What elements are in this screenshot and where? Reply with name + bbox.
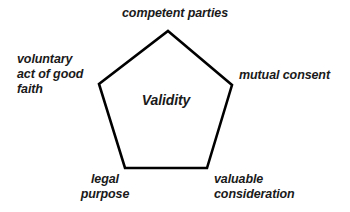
label-validity-center: Validity	[99, 92, 233, 109]
label-mutual-consent: mutual consent	[239, 68, 350, 83]
label-competent-parties: competent parties	[0, 6, 350, 21]
label-legal-purpose: legal purpose	[55, 172, 155, 202]
label-valuable-consideration: valuable consideration	[214, 172, 344, 202]
label-voluntary-act-of-good-faith: voluntary act of good faith	[17, 52, 99, 96]
diagram-canvas: competent parties voluntary act of good …	[0, 0, 350, 212]
